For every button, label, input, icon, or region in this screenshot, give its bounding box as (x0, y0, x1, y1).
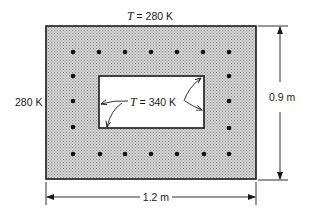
node-dot (149, 50, 154, 55)
node-dot (71, 74, 76, 79)
node-dot (98, 152, 103, 157)
inner-temperature-label: T = 340 K (130, 95, 176, 109)
node-dot (227, 99, 232, 104)
node-dot (149, 152, 154, 157)
node-dot (71, 99, 76, 104)
node-dot (71, 152, 76, 157)
node-dot (227, 50, 232, 55)
node-dot (97, 50, 102, 55)
node-dot (201, 50, 206, 55)
node-dot (227, 74, 232, 79)
height-dimension-label: 0.9 m (269, 91, 296, 103)
node-dot (71, 50, 76, 55)
node-dot (227, 152, 232, 157)
node-dot (202, 152, 207, 157)
diagram-canvas: T = 280 K 280 K T = 340 K 0.9 m 1.2 m (0, 0, 312, 216)
left-temperature-label: 280 K (15, 96, 42, 108)
node-dot (175, 152, 180, 157)
node-dot (175, 50, 180, 55)
width-dimension-label: 1.2 m (143, 191, 170, 203)
node-dot (123, 50, 128, 55)
node-dot (71, 125, 76, 130)
height-dimension (258, 26, 288, 180)
node-dot (123, 152, 128, 157)
node-dot (227, 126, 232, 131)
top-temperature-label: T = 280 K (127, 9, 173, 23)
